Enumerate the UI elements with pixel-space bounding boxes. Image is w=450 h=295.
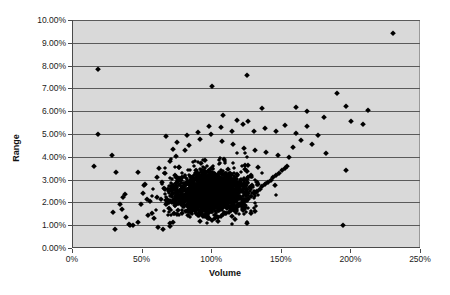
x-tick-label: 150%	[270, 254, 292, 264]
data-point	[219, 138, 224, 143]
data-point	[343, 168, 348, 173]
data-point	[242, 145, 247, 150]
data-point	[235, 118, 240, 123]
x-tick-mark	[420, 249, 421, 253]
data-point	[264, 150, 269, 155]
data-point	[233, 216, 238, 221]
data-point	[162, 208, 166, 212]
data-point	[215, 218, 220, 223]
data-point	[136, 219, 141, 224]
x-tick-mark	[142, 249, 143, 253]
data-point	[159, 197, 164, 202]
data-point	[253, 147, 258, 152]
data-point	[188, 215, 192, 219]
data-point	[163, 166, 167, 170]
data-point	[293, 104, 298, 109]
data-point	[140, 191, 145, 196]
y-tick-label: 6.00%	[42, 106, 66, 116]
y-tick-label: 8.00%	[42, 61, 66, 71]
data-point	[161, 226, 166, 231]
data-point	[282, 122, 287, 127]
data-point	[304, 109, 309, 114]
x-tick-label: 250%	[409, 254, 431, 264]
data-point	[360, 121, 365, 126]
data-point	[183, 148, 188, 153]
data-point	[96, 131, 101, 136]
x-tick-label: 0%	[66, 254, 78, 264]
x-tick-label: 50%	[133, 254, 150, 264]
data-point	[324, 151, 329, 156]
data-point	[290, 144, 295, 149]
data-point	[341, 223, 346, 228]
data-point	[255, 165, 260, 170]
data-point	[231, 142, 236, 147]
data-point	[240, 121, 245, 126]
data-point	[274, 128, 279, 133]
data-point	[136, 169, 141, 174]
data-point	[259, 171, 263, 175]
data-point	[164, 134, 169, 139]
data-point	[249, 211, 254, 216]
data-point	[151, 187, 155, 191]
y-tick-label: 10.00%	[37, 15, 66, 25]
data-point	[343, 103, 348, 108]
data-point	[154, 208, 158, 212]
y-tick-label: 3.00%	[42, 175, 66, 185]
y-tick-label: 7.00%	[42, 83, 66, 93]
x-tick-mark	[72, 249, 73, 253]
gridline	[73, 88, 420, 89]
data-point	[198, 219, 203, 224]
data-point	[245, 155, 249, 159]
y-tick-label: 1.00%	[42, 220, 66, 230]
data-point	[151, 216, 156, 221]
data-point	[186, 143, 191, 148]
data-point	[171, 146, 176, 151]
data-point	[111, 209, 116, 214]
x-tick-label: 100%	[200, 254, 222, 264]
data-point	[150, 194, 154, 198]
data-point	[96, 66, 101, 71]
data-point	[232, 166, 236, 170]
data-point	[273, 192, 277, 196]
data-point	[304, 123, 309, 128]
data-point	[229, 128, 234, 133]
data-point	[157, 166, 162, 171]
data-point	[263, 126, 268, 131]
data-point	[123, 215, 128, 220]
data-point	[141, 183, 146, 188]
gridline	[73, 66, 420, 67]
data-point	[208, 131, 213, 136]
data-point	[273, 183, 278, 188]
y-tick-label: 2.00%	[42, 197, 66, 207]
data-point	[286, 154, 291, 159]
data-point	[335, 90, 340, 95]
x-tick-label: 200%	[340, 254, 362, 264]
y-tick-label: 4.00%	[42, 152, 66, 162]
data-point	[175, 139, 180, 144]
gridline	[73, 134, 420, 135]
data-point	[237, 212, 241, 216]
data-point	[285, 163, 290, 168]
data-point	[230, 161, 234, 165]
x-tick-mark	[281, 249, 282, 253]
data-point	[218, 125, 223, 130]
data-point	[119, 207, 124, 212]
y-tick-label: 0.00%	[42, 243, 66, 253]
data-point	[91, 163, 96, 168]
scatter-chart: Range 0.00%1.00%2.00%3.00%4.00%5.00%6.00…	[0, 0, 450, 295]
data-point	[251, 128, 256, 133]
gridline	[73, 43, 420, 44]
data-point	[246, 119, 251, 124]
gridline	[73, 20, 420, 21]
data-point	[391, 30, 396, 35]
data-point	[221, 112, 226, 117]
data-point	[321, 114, 326, 119]
plot-area	[72, 20, 420, 248]
data-point	[310, 142, 315, 147]
y-tick-label: 9.00%	[42, 38, 66, 48]
data-point	[349, 119, 354, 124]
data-point	[177, 165, 182, 170]
data-point	[260, 105, 265, 110]
x-tick-mark	[350, 249, 351, 253]
data-point	[114, 169, 119, 174]
